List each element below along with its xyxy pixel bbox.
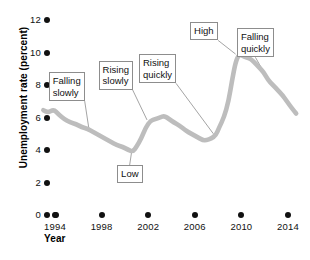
annotation-low: Low <box>117 165 142 183</box>
annotation-leader-lines <box>85 40 270 165</box>
annotation-rising-slowly: Rising slowly <box>99 61 133 90</box>
annotation-high: High <box>190 22 218 40</box>
annotation-falling-slowly: Falling slowly <box>49 72 85 101</box>
unemployment-rate-chart: Unemployment rate (percent) Year 0246810… <box>0 0 310 260</box>
leader-line-high <box>218 40 236 54</box>
leader-line-rising-slowly <box>133 90 147 120</box>
annotation-falling-quickly: Falling quickly <box>237 28 274 57</box>
leader-line-falling-slowly <box>85 101 89 128</box>
annotation-rising-quickly: Rising quickly <box>139 54 176 83</box>
